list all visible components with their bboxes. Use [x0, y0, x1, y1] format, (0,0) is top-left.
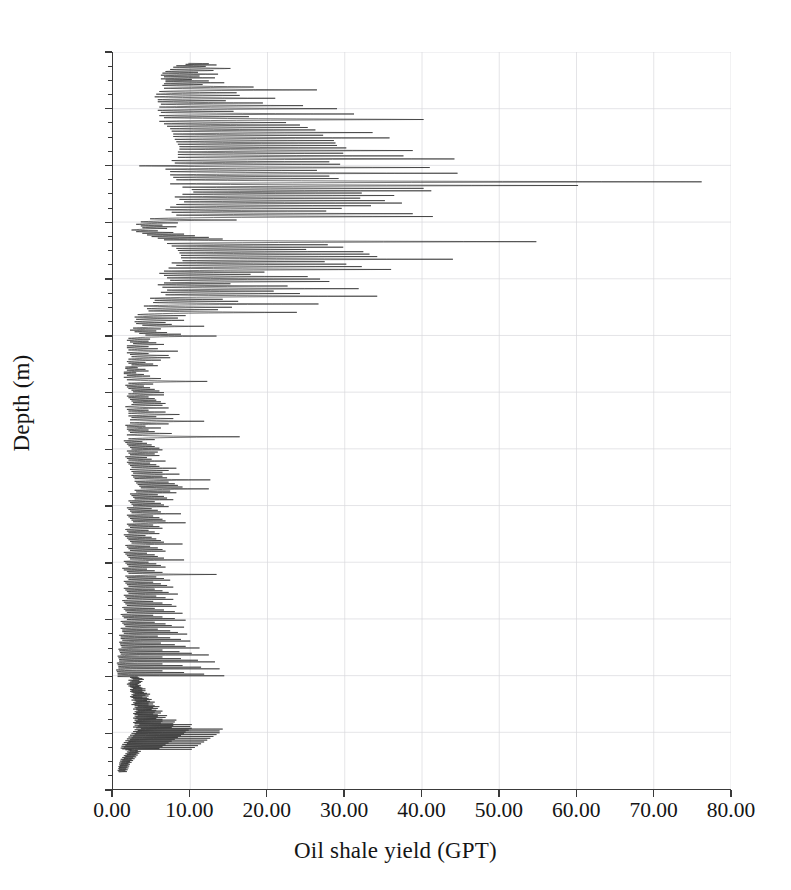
x-axis-tick: [576, 790, 577, 797]
x-axis-tick: [730, 790, 731, 797]
y-axis-ticks-and-labels: 5305505705906106306506706907107307507707…: [112, 52, 731, 790]
x-axis-tick-label: 30.00: [320, 799, 368, 821]
x-axis-tick-label: 0.00: [93, 799, 131, 821]
y-axis-minor-tick: [108, 477, 112, 478]
y-axis-minor-tick: [108, 747, 112, 748]
y-axis-minor-tick: [108, 250, 112, 251]
y-axis-minor-tick: [108, 122, 112, 123]
y-axis-minor-tick: [108, 491, 112, 492]
y-axis-minor-tick: [108, 293, 112, 294]
x-axis-tick: [343, 790, 344, 797]
y-axis-tick: [105, 562, 112, 563]
y-axis-minor-tick: [108, 463, 112, 464]
x-axis-title: Oil shale yield (GPT): [0, 838, 791, 864]
y-axis-tick: [105, 619, 112, 620]
y-axis-minor-tick: [108, 435, 112, 436]
x-axis-tick-label: 20.00: [243, 799, 291, 821]
x-axis-tick: [266, 790, 267, 797]
x-axis-tick-label: 10.00: [165, 799, 213, 821]
y-axis-minor-tick: [108, 364, 112, 365]
y-axis-minor-tick: [108, 66, 112, 67]
x-axis-tick-label: 50.00: [475, 799, 523, 821]
y-axis-minor-tick: [108, 307, 112, 308]
y-axis-tick: [105, 449, 112, 450]
x-axis-ticks-and-labels: 0.0010.0020.0030.0040.0050.0060.0070.008…: [112, 790, 731, 840]
y-axis-tick: [105, 51, 112, 52]
y-axis-minor-tick: [108, 236, 112, 237]
y-axis-minor-tick: [108, 350, 112, 351]
y-axis-minor-tick: [108, 704, 112, 705]
y-axis-minor-tick: [108, 534, 112, 535]
y-axis-tick: [105, 392, 112, 393]
y-axis-minor-tick: [108, 548, 112, 549]
y-axis-tick: [105, 222, 112, 223]
y-axis-tick: [105, 165, 112, 166]
y-axis-minor-tick: [108, 378, 112, 379]
oil-shale-yield-depth-log-figure: 5305505705906106306506706907107307507707…: [0, 0, 791, 890]
y-axis-tick: [105, 278, 112, 279]
y-axis-minor-tick: [108, 633, 112, 634]
x-axis-tick-label: 40.00: [397, 799, 445, 821]
y-axis-minor-tick: [108, 719, 112, 720]
y-axis-tick: [105, 505, 112, 506]
y-axis-minor-tick: [108, 591, 112, 592]
x-axis-tick: [421, 790, 422, 797]
y-axis-tick: [105, 676, 112, 677]
y-axis-minor-tick: [108, 761, 112, 762]
y-axis-minor-tick: [108, 690, 112, 691]
x-axis-tick: [189, 790, 190, 797]
y-axis-tick: [105, 108, 112, 109]
x-axis-tick-label: 80.00: [707, 799, 755, 821]
y-axis-minor-tick: [108, 406, 112, 407]
x-axis-tick: [111, 790, 112, 797]
y-axis-title: Depth (m): [9, 293, 35, 513]
y-axis-minor-tick: [108, 137, 112, 138]
y-axis-minor-tick: [108, 151, 112, 152]
y-axis-minor-tick: [108, 94, 112, 95]
y-axis-minor-tick: [108, 577, 112, 578]
y-axis-minor-tick: [108, 208, 112, 209]
y-axis-minor-tick: [108, 264, 112, 265]
y-axis-minor-tick: [108, 193, 112, 194]
y-axis-tick: [105, 733, 112, 734]
x-axis-tick: [653, 790, 654, 797]
y-axis-minor-tick: [108, 421, 112, 422]
y-axis-minor-tick: [108, 662, 112, 663]
x-axis-tick-label: 60.00: [552, 799, 600, 821]
y-axis-minor-tick: [108, 179, 112, 180]
y-axis-minor-tick: [108, 321, 112, 322]
y-axis-minor-tick: [108, 775, 112, 776]
y-axis-minor-tick: [108, 520, 112, 521]
y-axis-minor-tick: [108, 80, 112, 81]
x-axis-tick-label: 70.00: [629, 799, 677, 821]
y-axis-minor-tick: [108, 648, 112, 649]
y-axis-tick: [105, 335, 112, 336]
y-axis-minor-tick: [108, 605, 112, 606]
x-axis-tick: [498, 790, 499, 797]
